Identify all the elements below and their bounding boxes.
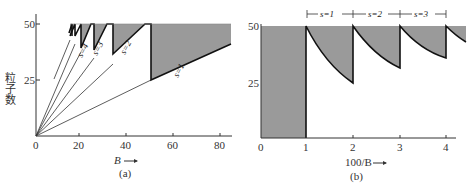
xtick-label-1-b: 1 — [303, 141, 309, 153]
ytick-label-25-b: 25 — [248, 77, 260, 89]
interval-label-s1: s=1 — [320, 9, 334, 19]
shaded-column-b — [261, 26, 306, 138]
x-axis-label-a: B — [114, 154, 121, 166]
xtick-label-0-b: 0 — [258, 141, 264, 153]
xtick-label-40-a: 40 — [120, 139, 132, 151]
interval-label-s2: s=2 — [368, 9, 383, 19]
line-s6-fragment — [54, 40, 70, 79]
line-s5 — [36, 44, 75, 136]
line-s2 — [36, 64, 113, 136]
ytick-label-25-a: 25 — [24, 74, 36, 86]
line-s4 — [36, 52, 81, 136]
arrow-head-icon-b — [383, 161, 387, 165]
xtick-label-3-b: 3 — [397, 141, 403, 153]
line-s3 — [36, 58, 94, 136]
arrow-head-icon-a — [134, 159, 138, 163]
caption-a: (a) — [119, 167, 132, 180]
xtick-label-2-b: 2 — [350, 141, 356, 153]
x-axis-label-b: 100/B — [345, 156, 372, 168]
xtick-label-4-b: 4 — [443, 141, 449, 153]
xtick-label-20-a: 20 — [73, 139, 85, 151]
xtick-label-80-a: 80 — [214, 139, 226, 151]
figure: 50 25 0 20 40 60 80 粒子数 B (a) s=1 s=2 s=… — [0, 0, 474, 188]
shaded-region-b — [306, 26, 466, 83]
caption-b: (b) — [350, 170, 363, 183]
label-s3-a: s=3 — [90, 39, 106, 57]
xtick-label-0-a: 0 — [33, 139, 39, 151]
panel-a: 50 25 0 20 40 60 80 粒子数 B (a) s=1 s=2 s=… — [4, 14, 232, 180]
y-axis-label-a: 粒子数 — [4, 71, 17, 106]
interval-label-s3: s=3 — [414, 9, 429, 19]
line-s1-lower — [36, 80, 151, 136]
xtick-label-60-a: 60 — [167, 139, 179, 151]
panel-b: 50 25 0 1 2 3 4 100/B (b) s=1 s=2 s=3 — [248, 9, 466, 183]
ytick-label-50-b: 50 — [248, 20, 260, 32]
label-s4-a: s=4 — [75, 41, 91, 59]
ytick-label-50-a: 50 — [24, 18, 36, 30]
